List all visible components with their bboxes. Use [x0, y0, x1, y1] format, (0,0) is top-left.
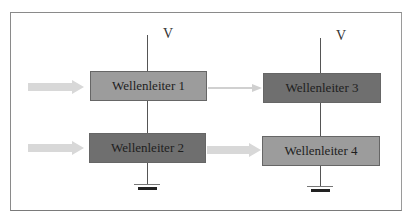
waveguide-1-label: Wellenleiter 1	[112, 78, 185, 94]
waveguide-2-box: Wellenleiter 2	[89, 133, 206, 163]
waveguide-2-label: Wellenleiter 2	[111, 140, 184, 156]
coupling-arrow-2-4-icon	[207, 143, 263, 157]
waveguide-3-box: Wellenleiter 3	[263, 73, 381, 103]
waveguide-1-box: Wellenleiter 1	[90, 71, 207, 101]
input-arrow-1-icon	[28, 80, 86, 94]
left-voltage-label: V	[163, 26, 173, 42]
waveguide-4-label: Wellenleiter 4	[285, 143, 358, 159]
input-arrow-2-icon	[28, 141, 86, 155]
waveguide-3-label: Wellenleiter 3	[286, 80, 359, 96]
right-voltage-label: V	[336, 28, 346, 44]
waveguide-4-box: Wellenleiter 4	[262, 136, 380, 166]
coupling-arrow-1-3-icon	[208, 83, 264, 93]
